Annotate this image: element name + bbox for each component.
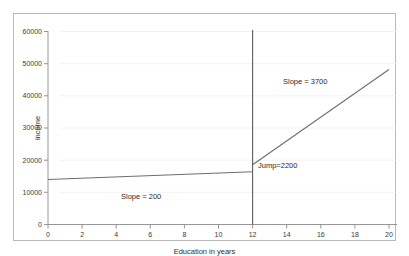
x-tick-label: 4: [106, 231, 126, 238]
x-tick-label: 2: [72, 231, 92, 238]
x-tick-label: 20: [379, 231, 399, 238]
y-tick-label: 10000: [12, 189, 42, 196]
x-tick-label: 12: [243, 231, 263, 238]
y-tick-label: 50000: [12, 60, 42, 67]
grid-lines: [60, 32, 397, 193]
regression-line-below: [48, 172, 253, 180]
x-tick-label: 18: [345, 231, 365, 238]
y-tick-label: 60000: [12, 28, 42, 35]
chart-frame: 60000 50000 40000 30000 20000 10000 0 0 …: [13, 13, 396, 241]
x-axis-title: Education in years: [14, 248, 395, 256]
x-tick-label: 14: [277, 231, 297, 238]
x-tick-label: 8: [174, 231, 194, 238]
x-tick-label: 6: [140, 231, 160, 238]
x-axis-ticks: [48, 225, 389, 229]
y-tick-label: 0: [12, 221, 42, 228]
y-axis-title: income: [34, 98, 42, 158]
chart-svg: [14, 14, 397, 242]
y-axis-ticks: [44, 32, 48, 225]
jump-label: Jump=2200: [258, 162, 297, 170]
x-tick-label: 10: [209, 231, 229, 238]
x-tick-label: 0: [38, 231, 58, 238]
slope-above-label: Slope = 3700: [283, 78, 327, 86]
slope-below-label: Slope = 200: [121, 193, 161, 201]
plot-area: 60000 50000 40000 30000 20000 10000 0 0 …: [14, 14, 395, 240]
x-tick-label: 16: [311, 231, 331, 238]
y-tick-label: 20000: [12, 157, 42, 164]
